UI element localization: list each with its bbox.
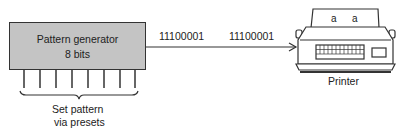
signal-byte-2: 11100001 (229, 30, 274, 42)
printer-label: Printer (328, 75, 359, 87)
signal-byte-1: 11100001 (159, 30, 204, 42)
paper-char-2: a (352, 13, 358, 24)
generator-title: Pattern generator (10, 33, 145, 45)
generator-bits: 8 bits (10, 48, 145, 60)
preset-label-line2: via presets (54, 116, 105, 128)
preset-lines (24, 70, 135, 88)
paper-char-1: a (331, 13, 337, 24)
preset-label-line1: Set pattern (52, 103, 103, 115)
printer-icon (296, 9, 395, 72)
brace-icon (20, 91, 138, 99)
pattern-generator-box: Pattern generator 8 bits (9, 22, 146, 70)
